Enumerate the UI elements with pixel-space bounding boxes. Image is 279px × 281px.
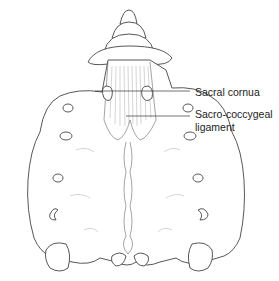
label-sacral-cornua: Sacral cornua — [195, 86, 260, 98]
label-sacro-coccygeal-line1: Sacro-coccygeal — [195, 108, 273, 120]
inferior-lateral-angle-left — [46, 243, 70, 271]
coccygeal-cornu-right — [134, 253, 149, 266]
sacral-cornu-left — [102, 86, 112, 101]
label-sacro-coccygeal-line2: ligament — [195, 121, 235, 133]
sacrum-illustration — [0, 0, 279, 281]
inferior-lateral-angle-right — [188, 243, 212, 271]
sacral-cornu-right — [142, 86, 153, 101]
coccyx — [88, 10, 172, 65]
sacrum-drawing — [0, 0, 279, 281]
